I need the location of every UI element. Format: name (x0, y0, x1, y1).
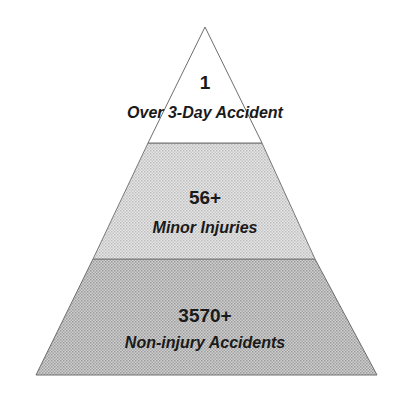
tier-bottom-count: 3570+ (0, 305, 395, 327)
tier-top-label: Over 3-Day Accident (0, 103, 395, 123)
tier-middle-count: 56+ (0, 187, 395, 209)
tier-bottom-label: Non-injury Accidents (0, 333, 395, 353)
tier-middle-label: Minor Injuries (0, 218, 395, 238)
tier-top-count: 1 (0, 72, 395, 94)
